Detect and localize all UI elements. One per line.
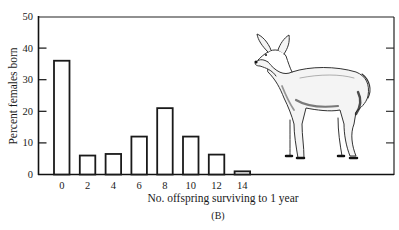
bar-4 [106,154,122,175]
y-tick-label: 10 [23,137,34,148]
y-tick-label: 0 [28,169,33,180]
x-tick-label: 4 [111,180,117,191]
bar-chart-figure: 01020304050 02468101214 Percent females … [0,0,399,230]
bar-12 [209,155,225,175]
bar-2 [80,156,96,175]
bar-14 [235,171,251,174]
x-tick-label: 2 [85,180,90,191]
chart-canvas: 01020304050 02468101214 Percent females … [0,0,399,230]
x-tick-label: 6 [137,180,142,191]
x-axis-tick-labels: 02468101214 [59,180,248,191]
x-tick-label: 14 [237,180,248,191]
y-tick-label: 20 [23,106,34,117]
bar-0 [54,61,70,175]
bar-10 [183,137,199,175]
x-tick-label: 0 [59,180,64,191]
right-axis-ticks [386,48,394,143]
y-tick-label: 30 [23,74,34,85]
x-tick-label: 8 [162,180,167,191]
x-tick-label: 12 [211,180,222,191]
deer-illustration [254,34,370,158]
y-axis-label: Percent females born [7,47,19,144]
bar-8 [157,108,173,174]
y-axis-ticks: 01020304050 [23,11,47,180]
bar-6 [131,137,147,175]
bars [54,61,250,175]
y-tick-label: 40 [23,43,34,54]
x-axis-label: No. offspring surviving to 1 year [147,192,298,205]
panel-label: (B) [211,210,224,222]
y-tick-label: 50 [23,11,34,22]
x-tick-label: 10 [186,180,197,191]
